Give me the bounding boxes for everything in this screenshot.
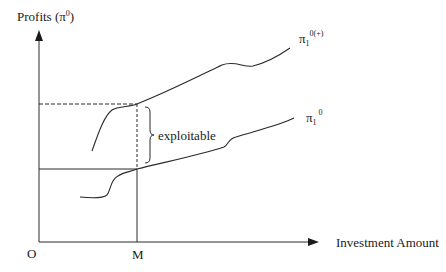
x-axis-label: Investment Amount xyxy=(336,235,439,250)
lower-curve-sup: 0 xyxy=(319,108,323,117)
upper-curve-sub: 1 xyxy=(306,39,310,48)
y-axis-label: Profits (π0) xyxy=(17,9,74,24)
origin-label: O xyxy=(27,246,36,261)
upper-curve-label: π10(+) xyxy=(299,29,324,48)
brace-label: exploitable xyxy=(158,128,216,143)
m-label: M xyxy=(132,247,144,262)
x-axis-arrow-icon xyxy=(308,238,319,246)
lower-curve-sub: 1 xyxy=(313,118,317,127)
lower-curve-label: π10 xyxy=(306,108,323,127)
y-axis-arrow-icon xyxy=(35,30,43,41)
upper-curve-sup: 0(+) xyxy=(310,29,324,38)
profit-diagram: Profits (π0) π10(+) π10 exploitable Inve… xyxy=(0,0,446,272)
brace-icon xyxy=(145,107,154,163)
